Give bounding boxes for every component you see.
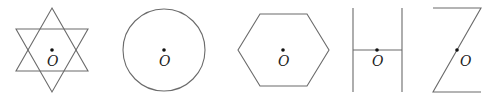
hexagon-figure: O — [238, 14, 329, 86]
center-point — [455, 48, 459, 52]
letter-h-figure: O — [353, 8, 402, 92]
symmetry-figures-diagram: O O O O O — [0, 0, 490, 105]
center-label: O — [372, 53, 384, 69]
center-label: O — [460, 53, 472, 69]
circle-figure: O — [123, 9, 205, 91]
center-point — [375, 48, 379, 52]
center-point — [50, 48, 54, 52]
center-point — [281, 48, 285, 52]
center-point — [162, 48, 166, 52]
letter-z-figure: O — [433, 8, 481, 92]
center-label: O — [159, 53, 171, 69]
hexagram-figure: O — [16, 8, 88, 92]
center-label: O — [47, 53, 59, 69]
center-label: O — [278, 53, 290, 69]
